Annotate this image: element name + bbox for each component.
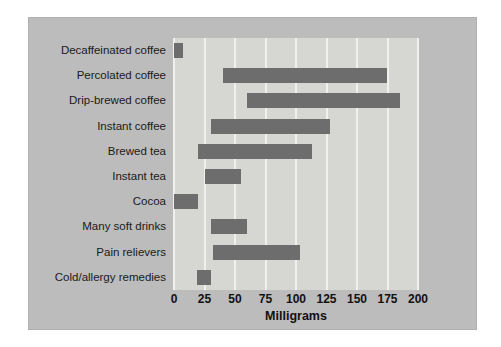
bar (205, 169, 242, 184)
bar (213, 245, 300, 260)
category-label: Cold/allergy remedies (55, 265, 166, 290)
bar-row (174, 114, 418, 139)
bar-row (174, 240, 418, 265)
category-label: Pain relievers (96, 240, 166, 265)
bar-row (174, 189, 418, 214)
plot-area (174, 38, 418, 290)
category-label: Many soft drinks (82, 214, 166, 239)
category-label: Instant tea (112, 164, 166, 189)
bar-row (174, 38, 418, 63)
bar (198, 144, 311, 159)
value-axis-ticks: 0255075100125150175200 (174, 292, 418, 310)
bar-row (174, 265, 418, 290)
x-tick-label: 100 (286, 292, 306, 306)
bar (197, 270, 210, 285)
category-label: Instant coffee (97, 114, 166, 139)
bar-row (174, 63, 418, 88)
bar-row (174, 164, 418, 189)
bar (223, 68, 388, 83)
category-label: Percolated coffee (77, 63, 166, 88)
bar-row (174, 88, 418, 113)
bar (174, 194, 198, 209)
bar (174, 43, 183, 58)
category-label: Cocoa (133, 189, 166, 214)
bar (211, 219, 248, 234)
x-tick-label: 25 (198, 292, 211, 306)
chart-figure: Decaffeinated coffeePercolated coffeeDri… (0, 0, 501, 347)
category-label: Brewed tea (108, 139, 166, 164)
bar (247, 93, 400, 108)
x-tick-label: 0 (171, 292, 178, 306)
bars-layer (174, 38, 418, 290)
x-tick-label: 175 (377, 292, 397, 306)
x-tick-label: 125 (316, 292, 336, 306)
category-label: Drip-brewed coffee (69, 88, 166, 113)
x-tick-label: 75 (259, 292, 272, 306)
chart-panel: Decaffeinated coffeePercolated coffeeDri… (29, 18, 476, 329)
x-tick-label: 50 (228, 292, 241, 306)
category-axis-labels: Decaffeinated coffeePercolated coffeeDri… (29, 38, 172, 290)
bar-row (174, 214, 418, 239)
bar-row (174, 139, 418, 164)
bar (211, 119, 331, 134)
plot-wrapper: Decaffeinated coffeePercolated coffeeDri… (29, 18, 476, 329)
x-tick-label: 150 (347, 292, 367, 306)
x-tick-label: 200 (408, 292, 428, 306)
category-label: Decaffeinated coffee (61, 38, 166, 63)
x-axis-title: Milligrams (174, 309, 418, 323)
